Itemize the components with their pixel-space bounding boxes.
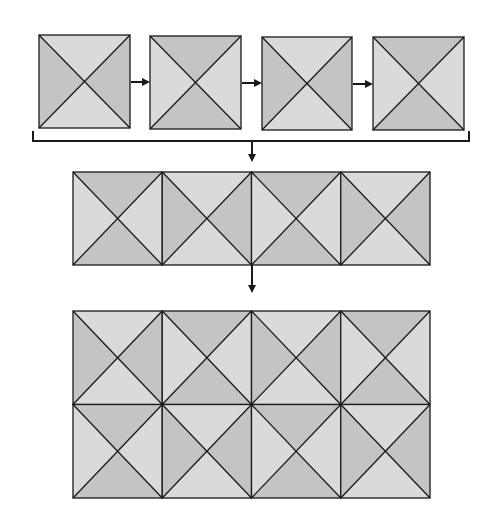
stage-tile-row: [73, 172, 430, 265]
grid-tile-r2-c3: [252, 405, 341, 499]
grid-tile-r1-c4: [341, 311, 430, 405]
grid-tile-r1-c3: [252, 311, 341, 405]
tile-4: [373, 37, 464, 130]
row-tile-3: [252, 172, 341, 265]
tile-3: [262, 37, 352, 130]
grid-tile-r2-c2: [162, 405, 251, 499]
grid-tile-r2-c1: [73, 405, 162, 499]
grid-tile-r1-c2: [162, 311, 251, 405]
tiling-diagram: [0, 0, 493, 524]
grouping-bracket: [33, 131, 469, 141]
row-tile-4: [341, 172, 430, 265]
tile-1: [39, 35, 130, 128]
row-tile-2: [162, 172, 251, 265]
tile-2: [150, 36, 241, 129]
stage-tile-grid: [73, 311, 430, 498]
row-tile-1: [73, 172, 162, 265]
grid-tile-r1-c1: [73, 311, 162, 405]
grid-tile-r2-c4: [341, 405, 430, 499]
